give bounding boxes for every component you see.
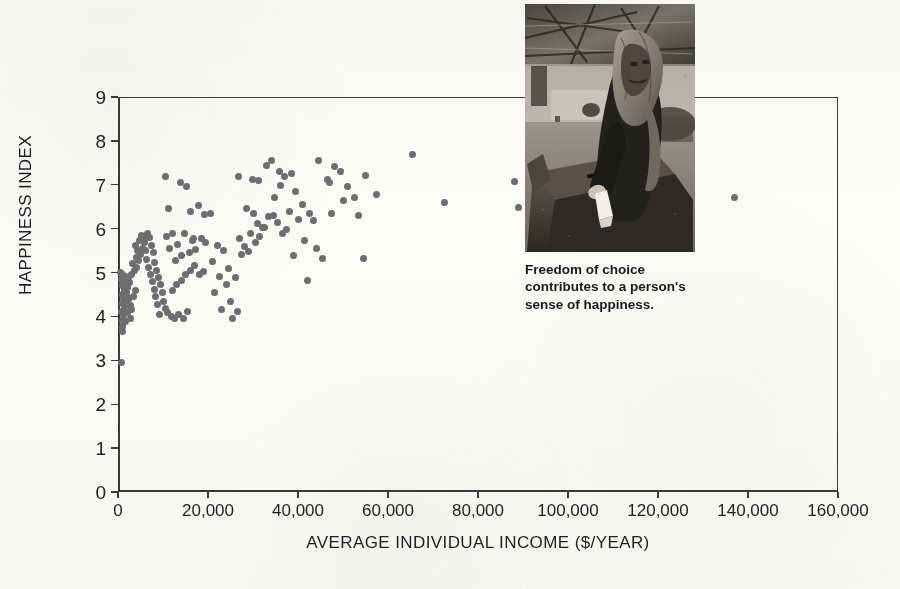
data-point	[155, 274, 162, 281]
y-tick-label: 8	[95, 131, 106, 150]
data-point	[259, 224, 266, 231]
data-point	[178, 277, 185, 284]
photo-illustration	[525, 4, 695, 252]
scatter-plot: 0123456789 020,00040,00060,00080,000100,…	[118, 97, 838, 492]
y-tick-label: 9	[95, 88, 106, 107]
data-point	[130, 293, 137, 300]
y-tick-mark	[111, 184, 118, 185]
y-tick-label: 1	[95, 439, 106, 458]
data-point	[132, 287, 139, 294]
data-point	[142, 247, 149, 254]
data-point	[301, 237, 308, 244]
data-point	[166, 245, 173, 252]
y-tick-mark	[111, 447, 118, 448]
x-tick-label: 40,000	[272, 502, 324, 519]
data-point	[241, 243, 248, 250]
x-tick-label: 20,000	[182, 502, 234, 519]
data-point	[409, 151, 416, 158]
y-tick-mark	[111, 360, 118, 361]
data-point	[274, 219, 281, 226]
data-point	[290, 252, 297, 259]
data-point	[165, 205, 172, 212]
data-point	[159, 289, 166, 296]
data-point	[157, 281, 164, 288]
data-point	[218, 306, 225, 313]
data-point	[255, 177, 262, 184]
data-point	[227, 298, 234, 305]
data-point	[207, 210, 214, 217]
x-tick-mark	[387, 492, 388, 498]
data-point	[150, 249, 157, 256]
data-point	[270, 212, 277, 219]
y-tick-label: 4	[95, 307, 106, 326]
y-tick-label: 3	[95, 351, 106, 370]
data-point	[331, 163, 338, 170]
data-point	[313, 245, 320, 252]
data-point	[149, 278, 156, 285]
data-point	[252, 239, 259, 246]
y-tick-mark	[111, 404, 118, 405]
x-tick-label: 80,000	[452, 502, 504, 519]
data-point	[250, 210, 257, 217]
data-point	[162, 173, 169, 180]
data-point	[304, 277, 311, 284]
data-point	[344, 183, 351, 190]
y-tick-mark	[111, 316, 118, 317]
data-point	[373, 191, 380, 198]
x-tick-mark	[747, 492, 748, 498]
x-tick-mark	[117, 492, 118, 498]
x-tick-mark	[477, 492, 478, 498]
data-point	[247, 230, 254, 237]
data-point	[306, 210, 313, 217]
woman-casting-ballot-photo	[525, 4, 695, 252]
data-point	[181, 230, 188, 237]
data-point	[235, 173, 242, 180]
y-tick-mark	[111, 96, 118, 97]
photo-figure: Freedom of choice contributes to a perso…	[525, 4, 695, 313]
data-point	[128, 306, 135, 313]
y-tick-mark	[111, 228, 118, 229]
data-point	[148, 242, 155, 249]
data-point	[319, 255, 326, 262]
data-point	[190, 235, 197, 242]
data-point	[310, 217, 317, 224]
data-point	[187, 208, 194, 215]
data-point	[441, 199, 448, 206]
data-point	[328, 210, 335, 217]
data-point	[511, 178, 518, 185]
x-tick-label: 60,000	[362, 502, 414, 519]
x-axis-title: AVERAGE INDIVIDUAL INCOME ($/YEAR)	[118, 533, 838, 553]
data-point	[351, 194, 358, 201]
data-point	[154, 301, 161, 308]
data-point	[151, 259, 158, 266]
data-point	[299, 201, 306, 208]
x-tick-mark	[207, 492, 208, 498]
y-tick-label: 0	[95, 483, 106, 502]
x-tick-label: 100,000	[537, 502, 598, 519]
data-point	[232, 274, 239, 281]
x-tick-label: 120,000	[627, 502, 688, 519]
data-point	[180, 315, 187, 322]
y-axis-title: HAPPINESS INDEX	[16, 135, 36, 295]
data-point	[191, 262, 198, 269]
data-point	[326, 179, 333, 186]
data-point	[220, 247, 227, 254]
data-point	[362, 172, 369, 179]
data-point	[183, 183, 190, 190]
plot-frame-right	[837, 97, 838, 492]
data-point	[124, 284, 131, 291]
data-point	[192, 246, 199, 253]
data-point	[281, 173, 288, 180]
data-point	[214, 242, 221, 249]
x-tick-label: 160,000	[807, 502, 868, 519]
data-point	[174, 241, 181, 248]
y-tick-mark	[111, 140, 118, 141]
y-tick-label: 2	[95, 395, 106, 414]
plot-frame-top	[118, 97, 838, 98]
data-point	[283, 226, 290, 233]
data-point	[225, 265, 232, 272]
data-point	[315, 157, 322, 164]
data-point	[243, 205, 250, 212]
data-point	[143, 256, 150, 263]
data-point	[256, 233, 263, 240]
